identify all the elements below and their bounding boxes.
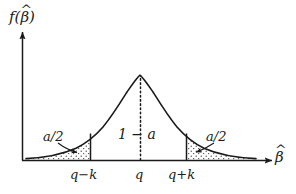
tick-label-center: q xyxy=(135,168,143,181)
x-axis-label: ^β xyxy=(275,150,284,165)
right-tail-probability-label: a/2 xyxy=(206,130,226,143)
x-axis-label-beta-hat: ^β xyxy=(275,150,284,165)
x-axis-hat-mark: ^ xyxy=(275,143,284,157)
distribution-plot-svg xyxy=(0,0,296,194)
confidence-interval-figure: f(^β) ^β 1 − a a/2 a/2 q−k q q+k xyxy=(0,0,296,194)
tick-label-lower-bound: q−k xyxy=(70,168,97,181)
left-tail-probability-label: a/2 xyxy=(43,130,63,143)
tick-label-upper-bound: q+k xyxy=(168,168,195,181)
central-probability-label: 1 − a xyxy=(118,127,156,141)
y-axis-label: f(^β) xyxy=(9,10,35,25)
y-axis-hat-mark: ^ xyxy=(20,3,29,17)
y-axis-label-f: f( xyxy=(9,8,20,26)
y-axis-label-beta-hat: ^β xyxy=(20,10,29,25)
